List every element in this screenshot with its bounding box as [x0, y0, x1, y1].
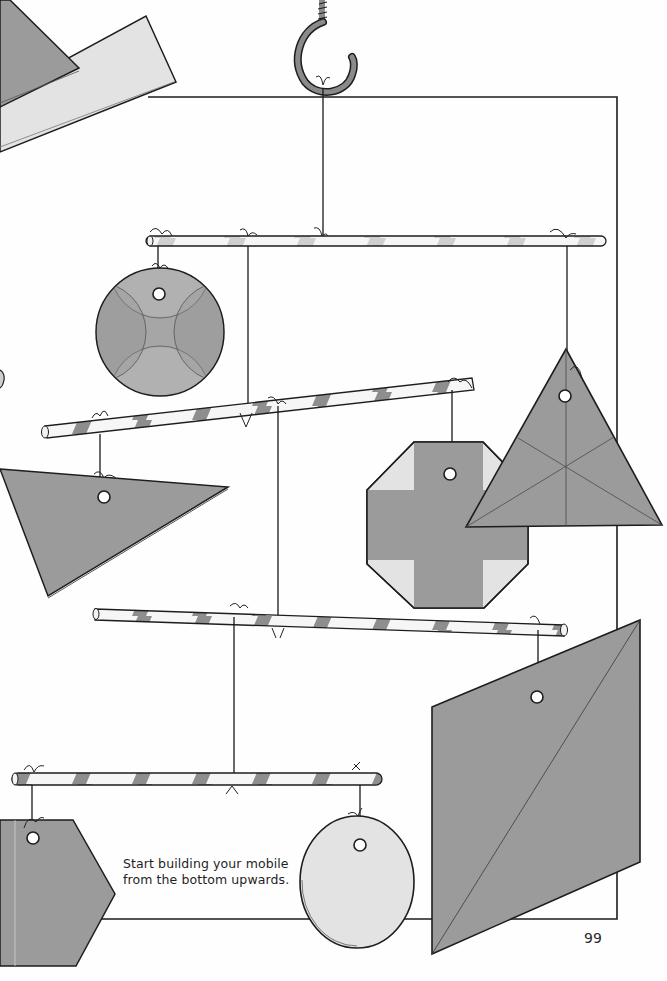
book-page: Start building your mobile from the bott… [0, 0, 667, 981]
rod-4 [12, 762, 382, 794]
square-card-diagonal [432, 620, 640, 954]
mobile-illustration [0, 0, 667, 981]
rod-2 [42, 378, 475, 438]
caption-line-2: from the bottom upwards. [123, 872, 323, 888]
instruction-caption: Start building your mobile from the bott… [123, 856, 323, 888]
rod-3 [93, 603, 568, 638]
triangle-card-left [0, 469, 228, 598]
caption-line-1: Start building your mobile [123, 856, 323, 872]
left-edge-fragment [0, 370, 4, 388]
page-number: 99 [584, 930, 602, 946]
hexagon-card [0, 818, 115, 967]
triangle-card-right [466, 349, 662, 527]
rod-1 [146, 228, 606, 246]
